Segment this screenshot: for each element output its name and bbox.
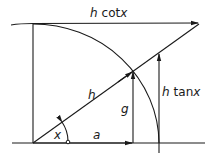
label-a: a (93, 128, 100, 142)
label-h-tan-x: htanx (162, 85, 201, 99)
unit-arc (33, 24, 159, 143)
label-x: x (53, 128, 62, 142)
hypotenuse (33, 24, 199, 143)
trig-diagram: hcotx h g htanx x a (0, 0, 211, 162)
angle-arc (62, 122, 68, 141)
label-h-cot-x: hcotx (90, 6, 128, 20)
angle-marker (66, 140, 70, 144)
label-g: g (121, 102, 129, 116)
label-h: h (88, 88, 96, 102)
h-arrow (118, 72, 132, 82)
